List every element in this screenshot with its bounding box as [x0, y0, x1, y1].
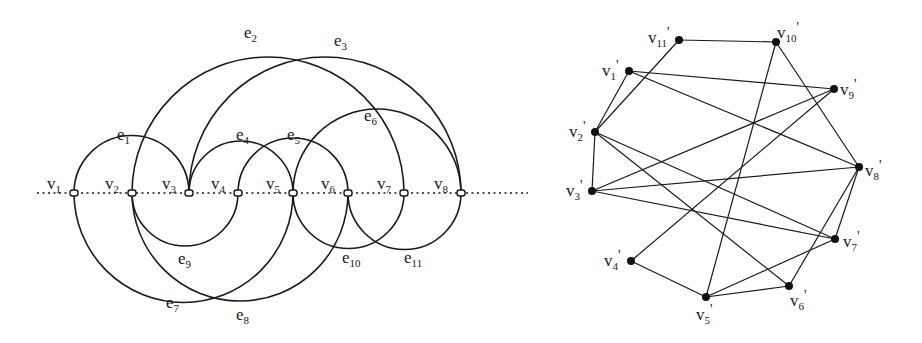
edge-label-e4: e4	[236, 125, 250, 146]
vertex-label-v2: v2	[105, 174, 119, 195]
vertex-v3p	[588, 187, 596, 195]
edge-v4p-v5p	[631, 261, 706, 297]
vertex-label-v7: v7	[377, 174, 392, 195]
edge-e7	[74, 193, 293, 302]
edge-label-e3: e3	[334, 31, 348, 52]
edge-v3p-v8p	[592, 167, 859, 191]
right-labels: v1'v2'v3'v4'v5'v6'v7'v8'v9'v10'v11'	[566, 20, 882, 326]
vertex-label-v6p: v6'	[790, 288, 807, 312]
edge-v11p-v10p	[679, 40, 776, 42]
vertex-v8p	[855, 163, 863, 171]
edge-v3p-v7p	[592, 191, 835, 239]
vertex-v7p	[831, 235, 839, 243]
vertex-v4	[234, 190, 242, 196]
vertex-label-v3: v3	[162, 174, 177, 195]
vertex-label-v4: v4	[211, 174, 226, 195]
edge-label-e8: e8	[236, 305, 250, 326]
edge-label-e2: e2	[244, 23, 257, 44]
edge-e3	[189, 57, 461, 193]
edge-label-e1: e1	[117, 125, 130, 146]
vertex-v7	[400, 190, 408, 196]
edge-e2	[132, 57, 404, 193]
vertex-v1	[70, 190, 78, 196]
edge-label-e7: e7	[166, 293, 180, 314]
edge-v9p-v3p	[592, 89, 834, 191]
vertex-label-v7p: v7'	[843, 229, 860, 253]
left-labels: e1e2e3e4e5e6e7e8e9e10e11v1v2v3v4v5v6v7v8	[47, 23, 449, 326]
edge-v1p-v9p	[629, 71, 834, 89]
edge-label-e9: e9	[178, 249, 192, 270]
edge-v8p-v6p	[789, 167, 859, 286]
vertex-label-v8: v8	[434, 174, 449, 195]
edge-v8p-v7p	[835, 167, 859, 239]
vertex-label-v1: v1	[47, 174, 61, 195]
edge-e11	[348, 193, 461, 249]
vertex-label-v4p: v4'	[604, 248, 621, 272]
vertex-label-v5p: v5'	[696, 302, 713, 326]
edge-v2p-v7p	[595, 132, 835, 239]
vertex-label-v10p: v10'	[777, 20, 799, 44]
edge-label-e10: e10	[342, 248, 361, 269]
edge-e8	[132, 193, 348, 301]
edge-v2p-v3p	[592, 132, 595, 191]
vertex-v2	[128, 190, 136, 196]
edge-label-e5: e5	[287, 125, 301, 146]
vertex-v6p	[785, 282, 793, 290]
vertex-label-v1p: v1'	[602, 58, 619, 82]
edge-v1p-v8p	[629, 71, 859, 167]
vertex-v6	[344, 190, 352, 196]
vertex-v5p	[702, 293, 710, 301]
right-graph-circular: v1'v2'v3'v4'v5'v6'v7'v8'v9'v10'v11'	[566, 20, 882, 326]
edge-label-e11: e11	[404, 248, 422, 269]
vertex-v2p	[591, 128, 599, 136]
vertex-label-v5: v5	[266, 174, 281, 195]
vertex-v1p	[625, 67, 633, 75]
vertex-label-v11p: v11'	[648, 25, 670, 49]
vertex-label-v2p: v2'	[569, 119, 586, 143]
vertex-label-v8p: v8'	[865, 158, 882, 182]
vertex-v9p	[830, 85, 838, 93]
edge-v10p-v8p	[776, 42, 859, 167]
edge-v2p-v6p	[595, 132, 789, 286]
left-graph-arc-diagram: e1e2e3e4e5e6e7e8e9e10e11v1v2v3v4v5v6v7v8	[37, 23, 528, 326]
vertex-v8	[457, 190, 465, 196]
vertex-v3	[185, 190, 193, 196]
vertex-label-v9p: v9'	[840, 77, 857, 101]
vertex-v11p	[675, 36, 683, 44]
vertex-label-v6: v6	[321, 174, 336, 195]
right-vertices	[588, 36, 863, 301]
edge-e9	[132, 193, 238, 246]
vertex-v4p	[627, 257, 635, 265]
vertex-label-v3p: v3'	[566, 178, 583, 202]
graph-diagram: e1e2e3e4e5e6e7e8e9e10e11v1v2v3v4v5v6v7v8…	[0, 0, 922, 343]
vertex-v5	[289, 190, 297, 196]
